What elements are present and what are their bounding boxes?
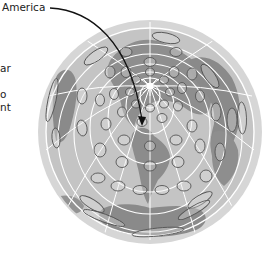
projection-map <box>0 0 268 254</box>
north-pole-marker <box>140 76 160 96</box>
